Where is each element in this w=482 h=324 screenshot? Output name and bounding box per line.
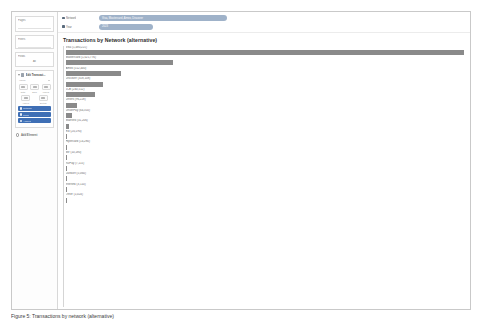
bar[interactable] (66, 166, 67, 171)
sidebar-tool-grid-row2: Values Sorting (18, 95, 51, 104)
bar-label: Maestro (31,206) (66, 119, 465, 123)
sidebar-visual-selector[interactable]: Visual (18, 79, 51, 82)
bar[interactable] (66, 50, 465, 55)
sidebar-edit-panel-title: Edit Transact... (26, 73, 46, 77)
filter-value-year[interactable]: 2023 (99, 24, 153, 30)
list-item-label: Network (23, 107, 32, 109)
bar-label: Dankort (5,060) (66, 172, 465, 176)
bar-row: Dankort (5,060) (66, 172, 465, 181)
sidebar-tool-grid-row1: Data Bars Labels (18, 84, 51, 93)
filter-value-network[interactable]: Visa, Mastercard, Amex, Discover (99, 15, 227, 21)
bar[interactable] (66, 92, 96, 97)
bar-row: Visa (1,480,221) (66, 46, 465, 55)
sidebar-section-filters-field[interactable] (18, 43, 51, 48)
sidebar-visual-label: Visual (19, 79, 25, 82)
chart-container: Transactions by Network (alternative) Vi… (58, 33, 470, 310)
filter-row-year: Year 2023 (62, 24, 466, 30)
gear-icon (16, 133, 19, 136)
bar-row: JCB (240,512) (66, 88, 465, 97)
bar[interactable] (66, 145, 67, 150)
sidebar-tool-bars[interactable]: Bars (30, 84, 40, 93)
sidebar-section-fields[interactable]: Fields All (15, 52, 54, 67)
bar-label: JCB (240,512) (66, 88, 465, 92)
sidebar-section-pages[interactable]: Pages (15, 16, 54, 32)
table-icon (21, 73, 24, 76)
sidebar-tool-sorting-label: Sorting (40, 102, 47, 104)
field-icon (20, 107, 22, 109)
filter-row-network: Network Visa, Mastercard, Amex, Discover (62, 15, 466, 21)
bar-row: Hipercard (14,280) (66, 140, 465, 149)
add-element-button[interactable]: Add Element (15, 131, 54, 138)
bar-row: RuPay (7,115) (66, 162, 465, 171)
sidebar-section-filters-label: Filters (18, 38, 51, 41)
bar[interactable] (66, 60, 174, 65)
bar-label: Visa (1,480,221) (66, 46, 465, 50)
caret-down-icon[interactable] (18, 74, 20, 76)
list-item[interactable]: Amount (18, 118, 51, 123)
bar[interactable] (66, 176, 67, 181)
bar-label: Elo (20,190) (66, 130, 465, 134)
sidebar-tool-values-label: Values (23, 102, 30, 104)
sidebar-tool-bars-label: Bars (32, 91, 37, 93)
bar-label: Hipercard (14,280) (66, 140, 465, 144)
figure-frame: Pages Filters Fields All Edit Transact..… (11, 11, 471, 310)
bar-label: Mir (10,180) (66, 151, 465, 155)
field-icon (20, 113, 22, 115)
sidebar-section-filters[interactable]: Filters (15, 35, 54, 49)
sidebar-edit-panel: Edit Transact... Visual Data Bars Labels (15, 70, 54, 128)
list-item[interactable]: Count (18, 112, 51, 117)
sidebar-tool-data[interactable]: Data (18, 84, 28, 93)
bar-row: Amex (512,440) (66, 67, 465, 76)
bar[interactable] (66, 124, 69, 129)
sidebar-fields-value: All (18, 60, 51, 63)
bar-row: Other (1,024) (66, 193, 465, 202)
bar-label: RuPay (7,115) (66, 162, 465, 166)
filter-bar: Network Visa, Mastercard, Amex, Discover… (58, 12, 470, 33)
sidebar-section-pages-label: Pages (18, 19, 51, 22)
align-left-icon[interactable] (19, 84, 28, 90)
sidebar-selected-field-list: Network Count Amount (18, 106, 51, 123)
bar-row: UnionPay (64,310) (66, 109, 465, 118)
field-icon (20, 120, 22, 122)
bar-row: Mir (10,180) (66, 151, 465, 160)
list-item-label: Count (23, 114, 29, 116)
sidebar-tool-labels-label: Labels (43, 91, 49, 93)
bar-label: UnionPay (64,310) (66, 109, 465, 113)
filter-key-year: Year (62, 25, 96, 29)
bar[interactable] (66, 71, 122, 76)
sidebar-tool-values[interactable]: Values (18, 95, 34, 104)
sidebar-tool-sorting[interactable]: Sorting (35, 95, 51, 104)
bar[interactable] (66, 82, 104, 87)
filter-key-network: Network (62, 16, 96, 20)
bar-chart-plot: Visa (1,480,221)Mastercard (1,021,776)Am… (63, 46, 464, 308)
values-icon[interactable] (21, 95, 30, 101)
bar[interactable] (66, 155, 67, 160)
bar[interactable] (66, 103, 78, 108)
figure-caption: Figure 5: Transactions by network (alter… (11, 313, 451, 319)
bar-label: Diners (96,228) (66, 98, 465, 102)
sidebar-edit-panel-header[interactable]: Edit Transact... (18, 73, 51, 77)
sidebar-tool-labels[interactable]: Labels (41, 84, 51, 93)
bar-label: Interlink (3,110) (66, 183, 465, 187)
bar-row: Mastercard (1,021,776) (66, 56, 465, 65)
align-center-icon[interactable] (30, 84, 39, 90)
chart-title: Transactions by Network (alternative) (63, 37, 464, 43)
sort-icon[interactable] (39, 95, 48, 101)
bar-label: Amex (512,440) (66, 67, 465, 71)
list-item[interactable]: Network (18, 106, 51, 111)
bar-row: Interlink (3,110) (66, 183, 465, 192)
bar[interactable] (66, 134, 68, 139)
list-item-label: Amount (23, 120, 31, 122)
align-right-icon[interactable] (42, 84, 51, 90)
bar-label: Discover (318,108) (66, 77, 465, 81)
sidebar-section-fields-label: Fields (18, 55, 51, 58)
bar-label: Other (1,024) (66, 193, 465, 197)
bar-row: Discover (318,108) (66, 77, 465, 86)
sidebar-section-pages-field[interactable] (18, 24, 51, 29)
bar[interactable] (66, 113, 72, 118)
chevron-down-icon[interactable] (48, 80, 50, 81)
filter-icon (62, 17, 65, 20)
filter-icon (62, 25, 65, 28)
main-content: Network Visa, Mastercard, Amex, Discover… (58, 12, 470, 309)
bar-row: Diners (96,228) (66, 98, 465, 107)
